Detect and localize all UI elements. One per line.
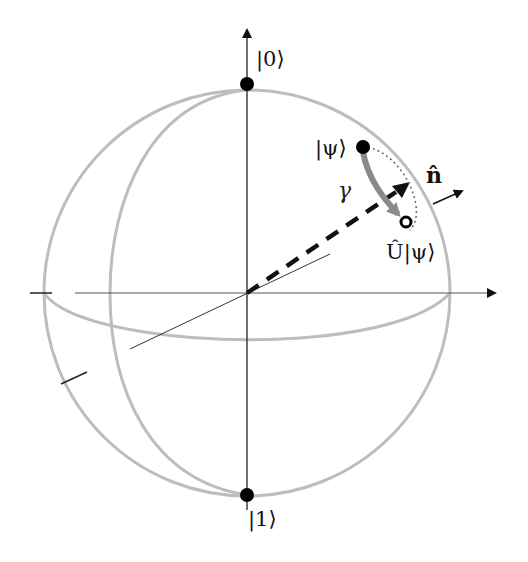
gamma-label: γ xyxy=(338,180,351,202)
rotation-axis-arrowhead xyxy=(392,182,410,198)
ket0-point xyxy=(240,77,254,91)
psi-label: |ψ⟩ xyxy=(315,138,347,159)
diagonal-axis xyxy=(130,254,330,349)
diagonal-axis-outside xyxy=(61,372,87,384)
n-hat-arrow xyxy=(433,191,462,204)
u-psi-point xyxy=(401,217,411,227)
ket0-label: |0⟩ xyxy=(256,49,285,70)
rotation-axis-dashed xyxy=(247,192,396,293)
ket1-label: |1⟩ xyxy=(248,509,277,530)
bloch-sphere-diagram xyxy=(0,0,528,562)
psi-point xyxy=(356,140,370,154)
u-psi-label: Û|ψ⟩ xyxy=(386,242,435,263)
rotation-arrow-gamma xyxy=(363,152,398,214)
ket1-point xyxy=(240,488,254,502)
n-hat-label: n̂ xyxy=(426,164,442,186)
